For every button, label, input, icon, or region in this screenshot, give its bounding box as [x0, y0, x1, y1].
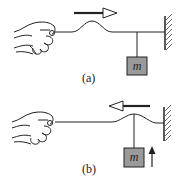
hand-icon — [12, 112, 53, 144]
wall — [165, 14, 172, 50]
arrow-up-icon — [149, 146, 156, 167]
panel-b: m (b) — [0, 89, 181, 179]
caption-a: (a) — [82, 71, 95, 86]
rope — [55, 21, 165, 32]
panel-a: m (a) — [0, 0, 181, 90]
mass-label: m — [133, 59, 142, 73]
mass-label: m — [130, 150, 139, 164]
caption-b: (b) — [82, 162, 96, 177]
arrow-left-icon — [109, 101, 150, 111]
arrow-right-icon — [74, 8, 117, 18]
hand-icon — [14, 22, 55, 54]
wall — [164, 105, 171, 141]
rope — [55, 114, 164, 123]
